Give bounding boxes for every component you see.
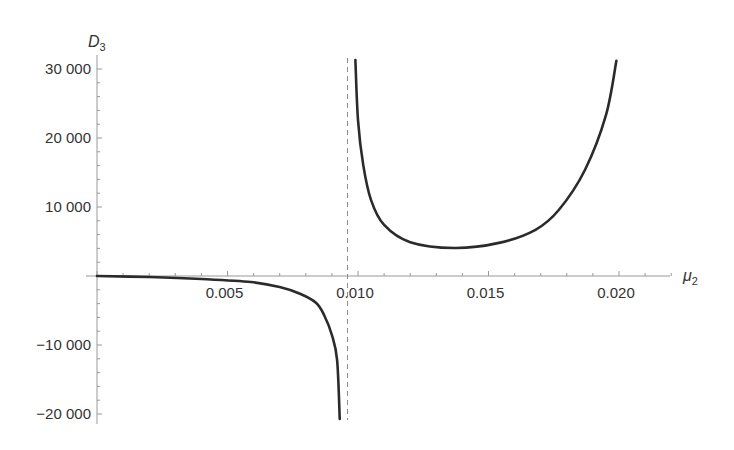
x-axis — [86, 271, 671, 276]
x-axis-label: μ2 — [682, 267, 698, 287]
y-axis-label: D3 — [88, 33, 106, 53]
x-tick-label: 0.020 — [597, 284, 635, 301]
y-tick-labels: 30 00020 00010 000−10 000−20 000 — [36, 60, 91, 422]
x-tick-label: 0.015 — [467, 284, 505, 301]
x-tick-label: 0.010 — [336, 284, 374, 301]
y-tick-label: −10 000 — [36, 336, 91, 353]
x-tick-labels: 0.0050.0100.0150.020 — [206, 284, 635, 301]
curve-right-branch — [355, 60, 616, 248]
chart-plot: 30 00020 00010 000−10 000−20 000 0.0050.… — [0, 0, 734, 450]
y-tick-label: 20 000 — [45, 129, 91, 146]
y-tick-label: 30 000 — [45, 60, 91, 77]
y-tick-label: 10 000 — [45, 198, 91, 215]
x-tick-label: 0.005 — [206, 284, 244, 301]
y-axis — [97, 55, 102, 424]
curve-series — [97, 60, 616, 419]
y-tick-label: −20 000 — [36, 405, 91, 422]
